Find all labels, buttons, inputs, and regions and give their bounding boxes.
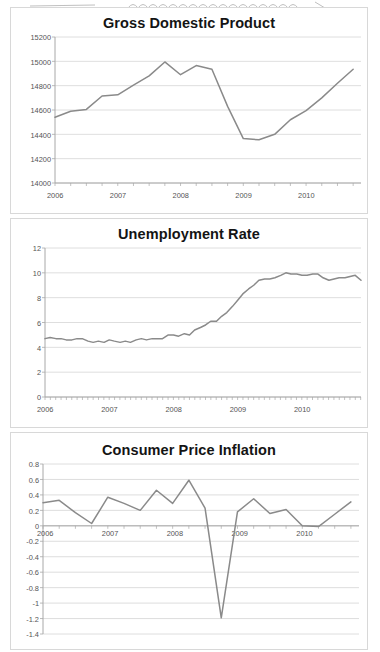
data-line xyxy=(43,480,351,618)
y-tick-label: -0.8 xyxy=(26,584,39,593)
y-tick-label: 0.6 xyxy=(29,476,39,485)
y-tick-label: 14600 xyxy=(30,106,51,115)
y-tick-label: 8 xyxy=(37,294,41,303)
x-tick-label: 2007 xyxy=(110,191,126,200)
chart-title-cpi: Consumer Price Inflation xyxy=(11,433,367,458)
chart-panel-unemployment: Unemployment Rate 0246810122006200720082… xyxy=(10,218,368,428)
y-tick-label: -1 xyxy=(32,599,39,608)
x-tick-label: 2006 xyxy=(47,191,63,200)
x-tick-label: 2007 xyxy=(102,529,118,538)
chart-title-gdp: Gross Domestic Product xyxy=(11,8,367,31)
y-tick-label: -0.2 xyxy=(26,537,39,546)
chart-panel-gdp: Gross Domestic Product 14000142001440014… xyxy=(10,7,368,214)
y-tick-label: -0.4 xyxy=(26,553,39,562)
x-tick-label: 2008 xyxy=(167,529,183,538)
y-tick-label: 0.2 xyxy=(29,507,39,516)
y-tick-label: 12 xyxy=(33,244,41,253)
y-tick-label: 15000 xyxy=(30,58,51,67)
x-tick-label: 2008 xyxy=(165,405,181,414)
data-line xyxy=(55,62,353,140)
chart-panel-cpi: Consumer Price Inflation 0.80.60.40.20-0… xyxy=(10,432,368,650)
x-tick-label: 2006 xyxy=(37,529,53,538)
y-tick-label: 14400 xyxy=(30,131,51,140)
y-tick-label: 0.4 xyxy=(29,491,39,500)
y-tick-label: 14800 xyxy=(30,82,51,91)
y-tick-label: 2 xyxy=(37,368,41,377)
x-tick-label: 2010 xyxy=(298,191,314,200)
x-tick-label: 2009 xyxy=(230,405,246,414)
y-tick-label: -1.4 xyxy=(26,630,39,639)
y-tick-label: 4 xyxy=(37,344,41,353)
y-tick-label: -0.6 xyxy=(26,568,39,577)
x-tick-label: 2007 xyxy=(101,405,117,414)
plot-area-cpi: 0.80.60.40.20-0.2-0.4-0.6-0.8-1-1.2-1.42… xyxy=(11,458,367,646)
y-tick-label: 6 xyxy=(37,319,41,328)
y-tick-label: 15200 xyxy=(30,33,51,42)
chart-title-unemployment: Unemployment Rate xyxy=(11,219,367,242)
x-tick-label: 2008 xyxy=(173,191,189,200)
y-tick-label: 0.8 xyxy=(29,460,39,469)
x-tick-label: 2006 xyxy=(37,405,53,414)
plot-area-gdp: 1400014200144001460014800150001520020062… xyxy=(11,31,367,209)
y-tick-label: -1.2 xyxy=(26,615,39,624)
y-tick-label: 14200 xyxy=(30,155,51,164)
data-line xyxy=(45,273,361,343)
x-tick-label: 2009 xyxy=(235,191,251,200)
y-tick-label: 0 xyxy=(37,393,41,402)
y-tick-label: 14000 xyxy=(30,179,51,188)
y-tick-label: 10 xyxy=(33,269,41,278)
figure-page: Gross Domestic Product 14000142001440014… xyxy=(0,0,380,652)
x-tick-label: 2010 xyxy=(294,405,310,414)
plot-area-unemployment: 02468101220062007200820092010 xyxy=(11,242,367,423)
x-tick-label: 2010 xyxy=(296,529,312,538)
